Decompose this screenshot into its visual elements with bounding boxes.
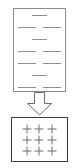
dash-mark	[18, 51, 36, 52]
source-panel	[13, 8, 66, 92]
result-panel	[11, 117, 68, 162]
dash-mark	[32, 15, 47, 16]
dash-mark	[43, 51, 61, 52]
dash-mark	[18, 27, 36, 28]
dash-row	[14, 62, 65, 64]
dash-row	[14, 26, 65, 28]
dash-mark	[18, 63, 36, 64]
dash-mark	[32, 39, 47, 40]
dash-mark	[43, 87, 61, 88]
plus-mark	[46, 145, 58, 156]
plus-mark	[33, 134, 45, 145]
dash-mark	[43, 27, 61, 28]
down-arrow-icon	[26, 92, 53, 116]
plus-mark	[33, 145, 45, 156]
caption-strip	[2, 0, 77, 6]
dash-row	[14, 86, 65, 88]
plus-mark	[21, 123, 33, 134]
plus-mark	[46, 134, 58, 145]
plus-mark	[21, 134, 33, 145]
dash-row	[14, 74, 65, 76]
source-dash-rows	[14, 14, 65, 88]
dash-mark	[18, 87, 36, 88]
dash-row	[14, 38, 65, 40]
plus-mark	[46, 123, 58, 134]
dash-row	[14, 14, 65, 16]
dash-mark	[43, 63, 61, 64]
dash-row	[14, 50, 65, 52]
plus-grid	[12, 118, 67, 161]
dash-mark	[32, 75, 47, 76]
plus-mark	[33, 123, 45, 134]
plus-mark	[21, 145, 33, 156]
